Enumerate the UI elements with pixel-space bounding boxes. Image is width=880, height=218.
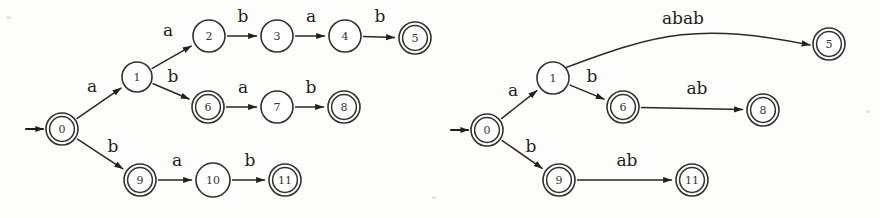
- state-label: 8: [760, 104, 767, 117]
- state-node-9-accepting[interactable]: 9: [543, 164, 575, 196]
- state-node-4[interactable]: 4: [329, 20, 361, 52]
- state-label: 7: [274, 101, 281, 114]
- state-node-1[interactable]: 1: [537, 62, 569, 94]
- state-node-5-accepting[interactable]: 5: [399, 22, 431, 54]
- transition-label-9-10: a: [172, 150, 182, 170]
- state-label: 3: [274, 30, 281, 43]
- state-label: 9: [137, 174, 144, 187]
- transition-label-7-8: b: [306, 77, 317, 97]
- state-label: 9: [556, 174, 563, 187]
- transition-label-0-9: b: [108, 136, 119, 156]
- state-node-11-accepting[interactable]: 11: [676, 164, 708, 196]
- state-label: 2: [206, 30, 213, 43]
- transition-label-2-3: b: [238, 6, 249, 26]
- state-label: 5: [826, 38, 833, 51]
- transition-edge-6-8: [641, 107, 742, 109]
- transition-label-6-7: a: [238, 77, 248, 97]
- transition-label-10-11: b: [245, 150, 256, 170]
- transition-label-0-1: a: [508, 80, 518, 100]
- state-node-11-accepting[interactable]: 11: [269, 164, 301, 196]
- automata-figure: 0123456789101101568911 aababbabbabaababb…: [0, 0, 880, 218]
- transition-label-1-5: abab: [662, 8, 704, 28]
- edges-layer: [77, 33, 810, 180]
- state-node-8-accepting[interactable]: 8: [328, 91, 360, 123]
- paper-speck: [6, 16, 11, 19]
- state-label: 10: [206, 174, 220, 187]
- transition-label-9-11: ab: [616, 150, 637, 170]
- state-label: 5: [412, 32, 419, 45]
- state-node-0-accepting[interactable]: 0: [26, 113, 78, 145]
- automata-canvas: 0123456789101101568911 aababbabbabaababb…: [0, 0, 880, 218]
- state-node-7[interactable]: 7: [261, 91, 293, 123]
- state-node-10[interactable]: 10: [196, 163, 230, 197]
- state-node-8-accepting[interactable]: 8: [747, 94, 779, 126]
- state-node-2[interactable]: 2: [193, 20, 225, 52]
- state-label: 11: [278, 174, 292, 187]
- paper-speck: [432, 196, 436, 199]
- state-label: 0: [484, 124, 491, 137]
- state-label: 1: [134, 71, 141, 84]
- transition-label-0-9: b: [526, 136, 537, 156]
- transition-label-4-5: b: [375, 6, 386, 26]
- transition-edge-0-1: [77, 88, 121, 118]
- state-node-9-accepting[interactable]: 9: [124, 164, 156, 196]
- state-label: 6: [620, 101, 627, 114]
- state-node-0-accepting[interactable]: 0: [451, 114, 503, 146]
- transition-label-1-2: a: [163, 20, 173, 40]
- state-node-5-accepting[interactable]: 5: [813, 28, 845, 60]
- transition-label-0-1: a: [87, 76, 97, 96]
- paper-speck: [866, 110, 870, 113]
- state-label: 4: [342, 30, 349, 43]
- transition-label-3-4: a: [306, 6, 316, 26]
- transition-edge-0-1: [502, 91, 537, 119]
- state-node-6-accepting[interactable]: 6: [607, 91, 639, 123]
- transition-edge-4-5: [363, 37, 394, 38]
- state-node-1[interactable]: 1: [122, 62, 152, 92]
- transition-label-6-8: ab: [686, 78, 707, 98]
- transition-edge-1-5: [565, 33, 810, 68]
- transition-edge-1-6: [570, 85, 604, 99]
- transition-label-1-6: b: [587, 66, 598, 86]
- edge-labels-layer: aababbabbabaababbabbab: [87, 6, 708, 170]
- transition-edge-1-6: [153, 84, 189, 99]
- state-node-6-accepting[interactable]: 6: [192, 91, 224, 123]
- state-label: 8: [341, 101, 348, 114]
- state-node-3[interactable]: 3: [261, 20, 293, 52]
- transition-label-1-6: b: [168, 66, 179, 86]
- state-label: 6: [205, 101, 212, 114]
- transition-edge-1-2: [152, 46, 191, 68]
- state-label: 0: [59, 123, 66, 136]
- state-label: 1: [550, 72, 557, 85]
- state-label: 11: [685, 174, 699, 187]
